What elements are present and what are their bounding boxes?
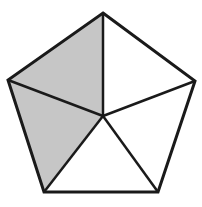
pentagon-diagram: [0, 0, 202, 207]
